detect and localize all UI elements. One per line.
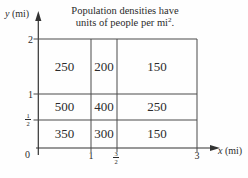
- x-tick-three-halves: 3 2: [113, 150, 119, 165]
- cell-value-r1c0: 500: [38, 94, 91, 120]
- cell-value-r0c2: 150: [117, 39, 197, 94]
- population-density-figure: Population densities have units of peopl…: [0, 0, 248, 178]
- y-tick-1: 1: [21, 89, 33, 100]
- y-axis-unit: (mi): [9, 8, 29, 19]
- cell-value-r1c2: 250: [117, 94, 197, 120]
- cell-value-r2c0: 350: [38, 120, 91, 148]
- y-tick-2: 2: [21, 34, 33, 45]
- y-axis-label: y (mi): [5, 8, 29, 19]
- cell-value-r0c1: 200: [91, 39, 117, 94]
- x-tick-1: 1: [85, 150, 97, 161]
- y-tick-one-half-denominator: 2: [25, 119, 31, 127]
- x-tick-three-halves-denominator: 2: [113, 157, 119, 165]
- x-tick-three-halves-numerator: 3: [113, 150, 119, 157]
- cell-value-r2c2: 150: [117, 120, 197, 148]
- origin-tick-0: 0: [19, 149, 30, 160]
- x-axis-unit: (mi): [222, 145, 242, 156]
- x-tick-3: 3: [191, 150, 203, 161]
- cell-value-r1c1: 400: [91, 94, 117, 120]
- y-tick-one-half-numerator: 1: [25, 112, 31, 119]
- x-axis-label: x (mi): [218, 145, 242, 156]
- cell-value-r2c1: 300: [91, 120, 117, 148]
- y-axis-arrow-icon: [35, 11, 41, 21]
- y-tick-one-half: 1 2: [25, 112, 31, 127]
- cell-value-r0c0: 250: [38, 39, 91, 94]
